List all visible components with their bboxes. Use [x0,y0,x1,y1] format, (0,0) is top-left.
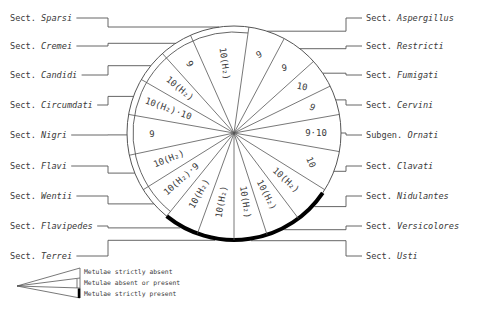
connector-line [76,43,175,46]
section-label-nigri: Sect. Nigri [10,130,67,140]
connector-line [76,196,153,204]
sector-divider [234,61,314,133]
sector-value-restricti: 9 [281,63,288,74]
section-label-cremei: Sect. Cremei [10,41,72,51]
connector-line [97,226,180,228]
connector-line [334,166,362,171]
sector-value-clavati: 10 [304,155,318,169]
legend-fan-divider [17,278,80,286]
section-label-text: Sect. Versicolores [366,221,459,231]
section-label-aspergillus: Sect. Aspergillus [366,13,454,23]
sector-value-nidulantes: 10(H₂) [271,165,302,194]
legend-fan-icon [17,268,80,298]
sector-value-versicolores: 10(H₂) [255,178,279,211]
section-label-ornati: Subgen. Ornati [366,130,438,140]
sector-value-cremei: 9 [184,59,195,69]
section-label-usti: Sect. Usti [366,251,418,261]
connector-line [251,241,362,256]
connector-line [323,73,362,75]
sector-value-usti: 10(H₂) [238,185,253,219]
section-label-text: Sect. Circumdati [10,100,93,110]
sector-value-cervini: 9 [308,102,317,113]
double-ring-arc [133,32,248,211]
section-label-nidulantes: Sect. Nidulantes [366,191,449,201]
sector-value-ornati: 9·10 [305,128,327,138]
section-labels: Sect. AspergillusSect. RestrictiSect. Fu… [10,13,459,261]
section-label-flavipedes: Sect. Flavipedes [10,221,93,231]
section-label-text: Sect. Wentii [10,191,72,201]
section-label-circumdati: Sect. Circumdati [10,100,93,110]
section-label-text: Sect. Flavipedes [10,221,93,231]
section-label-text: Sect. Aspergillus [366,13,454,23]
legend-item-double: Metulae absent or present [84,279,180,287]
section-label-versicolores: Sect. Versicolores [366,221,459,231]
sector-value-nigri: 9 [149,129,155,139]
section-label-fumigati: Sect. Fumigati [366,70,438,80]
section-label-text: Subgen. Ornati [366,130,438,140]
section-label-text: Sect. Clavati [366,161,433,171]
connector-line [71,166,135,173]
section-label-text: Sect. Restricti [366,41,444,51]
section-label-candidi: Sect. Candidi [10,70,77,80]
legend: Metulae strictly absentMetulae absent or… [17,268,180,298]
sector-value-sparsi: 10(H₂) [218,47,232,81]
section-wheel: 991099·101010(H₂)10(H₂)10(H₂)10(H₂)10(H₂… [127,26,341,240]
section-label-text: Sect. Cremei [10,41,72,51]
connector-line [267,18,362,31]
section-label-flavi: Sect. Flavi [10,161,67,171]
connector-line [82,66,151,75]
legend-item-thick: Metulae strictly present [84,290,176,298]
connector-line [341,133,362,135]
sector-divider [234,27,249,133]
sector-divider [234,86,330,133]
section-label-text: Sect. Candidi [10,70,77,80]
section-label-text: Sect. Nigri [10,130,67,140]
section-label-text: Sect. Fumigati [366,70,438,80]
aspergillus-sections-wheel-diagram: 991099·101010(H₂)10(H₂)10(H₂)10(H₂)10(H₂… [0,0,480,314]
connector-line [300,46,362,49]
section-label-terrei: Sect. Terrei [10,251,72,261]
section-label-text: Sect. Nidulantes [366,191,449,201]
section-label-text: Sect. Cervini [366,100,433,110]
connector-line [76,18,219,27]
section-label-text: Sect. Flavi [10,161,67,171]
section-label-cervini: Sect. Cervini [366,100,433,110]
section-label-clavati: Sect. Clavati [366,161,433,171]
connector-line [284,226,362,230]
section-label-text: Sect. Terrei [10,251,72,261]
section-label-wentii: Sect. Wentii [10,191,72,201]
section-label-restricti: Sect. Restricti [366,41,444,51]
section-label-text: Sect. Usti [366,251,418,261]
connector-line [336,100,362,105]
sector-value-terrei: 10(H₂) [214,185,229,219]
connector-line [97,96,133,105]
section-label-sparsi: Sect. Sparsi [10,13,72,23]
connector-line [76,240,215,256]
sector-value-fumigati: 10 [296,81,309,93]
sector-value-candidi: 10(H₂) [164,74,196,102]
sector-value-aspergillus: 9 [254,49,263,60]
section-label-text: Sect. Sparsi [10,13,72,23]
legend-item-single: Metulae strictly absent [84,268,173,276]
